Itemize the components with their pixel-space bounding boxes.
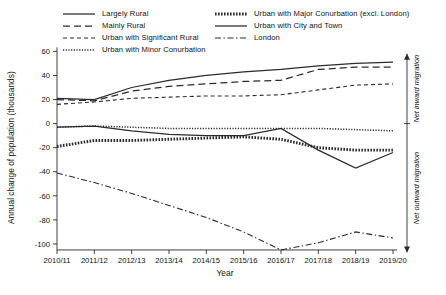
chart-root: Largely RuralUrban with Major Conurbatio… bbox=[0, 0, 446, 295]
legend-item-label: Urban with Significant Rural bbox=[102, 33, 199, 43]
legend-line-icon bbox=[214, 21, 248, 31]
x-axis-title: Year bbox=[217, 268, 234, 278]
x-axis-tick-label: 2011/12 bbox=[81, 256, 108, 265]
annotation-net-inward-migration: Net inward migration bbox=[412, 55, 421, 123]
y-axis-tick-label: -100 bbox=[35, 240, 50, 249]
series-line bbox=[57, 173, 393, 250]
y-axis-tick-label: 0 bbox=[46, 119, 50, 128]
y-axis-tick-label: -40 bbox=[39, 167, 50, 176]
x-axis-tick-label: 2016/17 bbox=[267, 256, 294, 265]
chart-canvas: 6040200-20-40-60-80-1002010/112011/12201… bbox=[0, 44, 446, 295]
legend-line-icon bbox=[62, 9, 96, 19]
series-line bbox=[57, 84, 393, 104]
x-axis-tick-label: 2017/18 bbox=[305, 256, 332, 265]
y-axis-title: Annual change of population (thousands) bbox=[6, 71, 16, 224]
x-axis-tick-label: 2018/19 bbox=[342, 256, 369, 265]
x-axis-tick-label: 2012/13 bbox=[118, 256, 145, 265]
arrow-head-down-icon bbox=[404, 246, 410, 252]
legend-item-label: Mainly Rural bbox=[102, 21, 145, 31]
legend-line-icon bbox=[62, 21, 96, 31]
legend-item[interactable]: Mainly Rural bbox=[62, 20, 214, 32]
x-axis-tick-label: 2019/20 bbox=[379, 256, 406, 265]
legend-item[interactable]: Largely Rural bbox=[62, 8, 214, 20]
x-axis-tick-label: 2013/14 bbox=[155, 256, 182, 265]
arrow-head-up-icon bbox=[404, 54, 410, 60]
legend-item[interactable]: Urban with City and Town bbox=[214, 20, 440, 32]
plot-area-wrapper: 6040200-20-40-60-80-1002010/112011/12201… bbox=[0, 44, 446, 295]
legend-line-icon bbox=[62, 33, 96, 43]
series-line bbox=[57, 126, 393, 168]
legend-line-icon bbox=[214, 9, 248, 19]
legend-line-icon bbox=[214, 33, 248, 43]
annotation-net-outward-migration: Net outward migration bbox=[412, 152, 421, 224]
legend-item[interactable]: Urban with Significant Rural bbox=[62, 32, 214, 44]
legend-item-label: Urban with Major Conurbation (excl. Lond… bbox=[254, 9, 409, 19]
series-line bbox=[57, 126, 393, 131]
x-axis-tick-label: 2015/16 bbox=[230, 256, 257, 265]
y-axis-tick-label: 40 bbox=[42, 71, 50, 80]
y-axis-tick-label: 20 bbox=[42, 95, 50, 104]
legend-item-label: Largely Rural bbox=[102, 9, 148, 19]
series-line bbox=[57, 137, 393, 150]
x-axis-tick-label: 2014/15 bbox=[193, 256, 220, 265]
legend-item[interactable]: London bbox=[214, 32, 440, 44]
y-axis-tick-label: -60 bbox=[39, 192, 50, 201]
y-axis-tick-label: -20 bbox=[39, 143, 50, 152]
y-axis-tick-label: -80 bbox=[39, 216, 50, 225]
legend-item[interactable]: Urban with Major Conurbation (excl. Lond… bbox=[214, 8, 440, 20]
legend-item-label: London bbox=[254, 33, 280, 43]
legend-item-label: Urban with City and Town bbox=[254, 21, 342, 31]
y-axis-tick-label: 60 bbox=[42, 47, 50, 56]
x-axis-tick-label: 2010/11 bbox=[44, 256, 71, 265]
